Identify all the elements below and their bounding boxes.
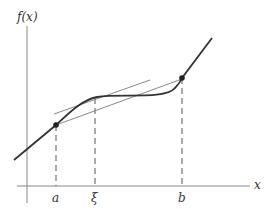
tick-label-b: b — [178, 191, 186, 205]
point-b — [179, 75, 185, 81]
point-a — [53, 122, 59, 128]
tick-label-a: a — [52, 191, 59, 205]
mvt-diagram: f(x) x a ξ b — [0, 0, 275, 209]
tick-label-xi: ξ — [91, 191, 99, 205]
y-axis-label: f(x) — [16, 10, 38, 24]
secant-line — [56, 79, 182, 125]
x-axis-label: x — [254, 178, 261, 192]
